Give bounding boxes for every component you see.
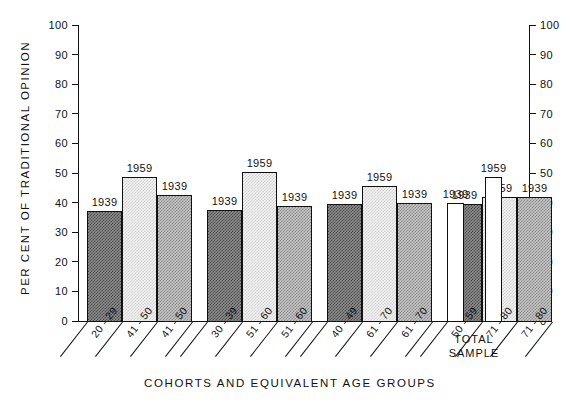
- tick-mark-left-80: [72, 84, 78, 85]
- y-tick-label-left-80: 80: [42, 79, 68, 89]
- y-tick-label-left-90: 90: [42, 50, 68, 60]
- y-tick-label-right-90: 90: [540, 50, 566, 60]
- tick-mark-right-50: [530, 173, 536, 174]
- y-tick-label-left-70: 70: [42, 109, 68, 119]
- bar-value-label-group-3-2: 1959: [360, 172, 400, 183]
- bar-value-label-group-4-3: 1939: [515, 183, 555, 194]
- bar-value-label-group-1-1: 1939: [85, 197, 125, 208]
- y-tick-label-left-30: 30: [42, 227, 68, 237]
- bar-group-3-2: [362, 186, 397, 322]
- bar-value-label-group-1-3: 1939: [155, 181, 195, 192]
- bar-group-1-3: [157, 195, 192, 322]
- tick-mark-left-100: [72, 25, 78, 26]
- bar-group-2-3: [277, 206, 312, 322]
- y-tick-label-left-10: 10: [42, 286, 68, 296]
- y-tick-label-left-0: 0: [42, 316, 68, 326]
- y-tick-label-right-100: 100: [540, 20, 566, 30]
- y-tick-label-right-70: 70: [540, 109, 566, 119]
- bar-value-label-group-2-1: 1939: [205, 196, 245, 207]
- y-axis-left: [78, 25, 79, 322]
- bar-total-sample-2: [485, 177, 502, 322]
- bar-group-4-3: [517, 197, 552, 322]
- y-tick-label-left-40: 40: [42, 198, 68, 208]
- total-sample-line-1: TOTAL: [432, 332, 516, 346]
- bar-value-label-group-2-3: 1939: [275, 192, 315, 203]
- total-sample-line-2: SAMPLE: [432, 346, 516, 360]
- y-tick-label-left-50: 50: [42, 168, 68, 178]
- category-rule: [180, 322, 208, 357]
- bar-value-label-group-2-2: 1959: [240, 158, 280, 169]
- tick-mark-right-90: [530, 54, 536, 55]
- tick-mark-left-30: [72, 232, 78, 233]
- y-tick-label-left-60: 60: [42, 138, 68, 148]
- y-tick-label-left-100: 100: [42, 20, 68, 30]
- bar-value-label-total-sample-2: 1959: [474, 163, 514, 174]
- y-tick-label-left-20: 20: [42, 257, 68, 267]
- bar-group-1-2: [122, 177, 157, 322]
- tick-mark-left-50: [72, 173, 78, 174]
- total-sample-caption: TOTAL SAMPLE: [432, 332, 516, 360]
- bar-chart: PER CENT OF TRADITIONAL OPINION 10010090…: [0, 0, 584, 407]
- tick-mark-right-80: [530, 84, 536, 85]
- category-rule: [300, 322, 328, 357]
- bar-group-2-2: [242, 172, 277, 322]
- tick-mark-left-40: [72, 202, 78, 203]
- y-tick-label-right-80: 80: [540, 79, 566, 89]
- bar-value-label-total-sample-1: 1939: [436, 189, 476, 200]
- bar-group-3-1: [327, 204, 362, 322]
- tick-mark-right-70: [530, 113, 536, 114]
- tick-mark-left-10: [72, 291, 78, 292]
- bar-value-label-group-3-3: 1939: [395, 189, 435, 200]
- tick-mark-left-20: [72, 261, 78, 262]
- y-tick-label-right-50: 50: [540, 168, 566, 178]
- tick-mark-left-0: [72, 321, 78, 322]
- tick-mark-right-60: [530, 143, 536, 144]
- y-axis-title: PER CENT OF TRADITIONAL OPINION: [14, 18, 36, 318]
- bar-group-1-1: [87, 211, 122, 322]
- tick-mark-left-60: [72, 143, 78, 144]
- bar-value-label-group-1-2: 1959: [120, 163, 160, 174]
- x-axis-title: COHORTS AND EQUIVALENT AGE GROUPS: [110, 377, 470, 389]
- y-tick-label-right-60: 60: [540, 138, 566, 148]
- bar-group-3-3: [397, 203, 432, 322]
- bar-value-label-group-3-1: 1939: [325, 190, 365, 201]
- tick-mark-left-70: [72, 113, 78, 114]
- tick-mark-left-90: [72, 54, 78, 55]
- bar-group-2-1: [207, 210, 242, 322]
- bar-total-sample-1: [447, 203, 464, 322]
- tick-mark-right-100: [530, 25, 536, 26]
